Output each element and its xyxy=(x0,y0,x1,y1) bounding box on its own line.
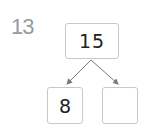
part-right-box[interactable] xyxy=(102,87,138,124)
arrow-left-icon xyxy=(67,60,91,84)
part-left-value: 8 xyxy=(59,95,71,117)
arrow-right-icon xyxy=(91,60,118,84)
part-left-box: 8 xyxy=(47,87,83,124)
